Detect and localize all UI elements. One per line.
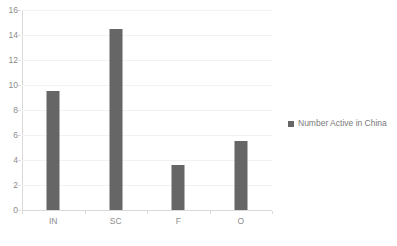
x-axis-tick-label: F bbox=[147, 216, 210, 226]
y-axis-tick-mark bbox=[18, 110, 21, 111]
bar-slot bbox=[85, 10, 148, 210]
x-axis-tick-label: IN bbox=[22, 216, 85, 226]
bar[interactable] bbox=[109, 29, 122, 210]
y-axis-tick-label: 14 bbox=[0, 31, 18, 39]
y-axis-tick-mark bbox=[18, 185, 21, 186]
y-axis-tick-labels: 0246810121416 bbox=[0, 10, 18, 210]
x-axis-tick-mark bbox=[210, 211, 211, 214]
y-axis-tick-label: 10 bbox=[0, 81, 18, 89]
x-axis-tick-mark bbox=[147, 211, 148, 214]
x-axis-tick-labels: INSCFO bbox=[22, 216, 272, 230]
y-axis-tick-mark bbox=[18, 85, 21, 86]
y-axis-tick-mark bbox=[18, 210, 21, 211]
y-axis-tick-mark bbox=[18, 160, 21, 161]
bar-slot bbox=[147, 10, 210, 210]
chart-legend: Number Active in China bbox=[288, 119, 387, 128]
bar-chart-figure: Number Active in China 0246810121416 INS… bbox=[0, 0, 397, 246]
x-axis-tick-mark bbox=[22, 211, 23, 214]
y-axis-tick-label: 6 bbox=[0, 131, 18, 139]
legend-label: Number Active in China bbox=[298, 119, 387, 128]
x-axis-tick-label: O bbox=[210, 216, 273, 226]
chart-title: Number Active in China bbox=[0, 0, 290, 2]
bar-slot bbox=[210, 10, 273, 210]
bar[interactable] bbox=[47, 91, 60, 210]
y-axis-tick-mark bbox=[18, 60, 21, 61]
plot-area bbox=[22, 10, 272, 210]
x-axis-tick-mark bbox=[272, 211, 273, 214]
x-axis-tick-label: SC bbox=[85, 216, 148, 226]
legend-swatch-icon bbox=[288, 121, 294, 127]
y-axis-tick-mark bbox=[18, 135, 21, 136]
bar[interactable] bbox=[234, 141, 247, 210]
y-axis-tick-label: 2 bbox=[0, 181, 18, 189]
y-axis-tick-mark bbox=[18, 35, 21, 36]
y-axis-tick-label: 0 bbox=[0, 206, 18, 214]
y-axis-tick-label: 12 bbox=[0, 56, 18, 64]
y-axis-tick-label: 16 bbox=[0, 6, 18, 14]
y-axis-tick-label: 4 bbox=[0, 156, 18, 164]
y-axis-tick-label: 8 bbox=[0, 106, 18, 114]
bar-slot bbox=[22, 10, 85, 210]
y-axis-tick-mark bbox=[18, 10, 21, 11]
bar[interactable] bbox=[172, 165, 185, 210]
x-axis-tick-mark bbox=[85, 211, 86, 214]
